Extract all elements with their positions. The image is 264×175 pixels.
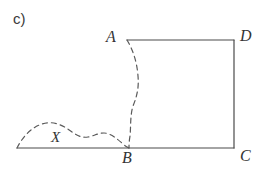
region-label-x: X <box>51 130 60 145</box>
vertex-label-b: B <box>122 150 132 166</box>
vertex-label-c: C <box>240 148 251 164</box>
vertex-label-a: A <box>106 29 116 45</box>
geometry-figure <box>0 0 264 175</box>
part-label: c) <box>13 11 26 26</box>
dashed-curve-region-x <box>17 123 129 148</box>
figure-container: c) A D C B X <box>0 0 264 175</box>
dashed-curve-a-to-b <box>127 40 138 148</box>
vertex-label-d: D <box>240 28 252 44</box>
